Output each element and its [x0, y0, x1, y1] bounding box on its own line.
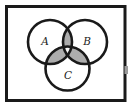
scan-artifact — [125, 66, 129, 74]
venn-figure: A B C — [0, 0, 135, 110]
label-set-b: B — [82, 35, 91, 47]
label-set-a: A — [40, 35, 49, 47]
label-set-c: C — [64, 69, 72, 81]
venn-diagram-svg: A B C — [0, 0, 135, 110]
